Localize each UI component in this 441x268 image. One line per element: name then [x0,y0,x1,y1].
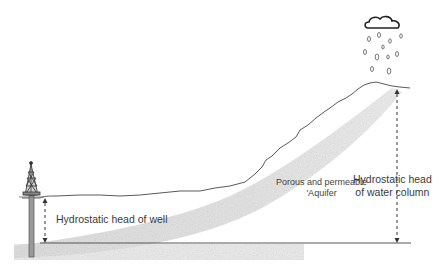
aquifer-label: Porous and permeable 'Aquifer [276,177,367,199]
well-head-arrow [43,198,48,243]
well-casing [29,195,34,257]
raindrops-icon [364,33,403,75]
aquifer-band [14,88,402,258]
well-head-label: Hydrostatic head of well [56,213,167,226]
rain-cloud-icon [365,17,399,28]
aquifer-label-line1: Porous and permeable [276,177,367,188]
column-head-arrow [395,89,400,243]
drilling-rig-icon [23,162,40,196]
diagram-canvas: Hydrostatic head of well Hydrostatic hea… [0,0,441,268]
aquifer-label-line2: 'Aquifer [276,188,367,199]
